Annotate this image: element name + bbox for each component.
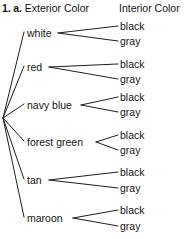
branch-line-stage2-2-0 <box>81 97 118 105</box>
interior-color-label: gray <box>120 107 140 118</box>
exterior-color-label: tan <box>27 175 42 186</box>
branch-line-stage1-3 <box>3 118 24 141</box>
interior-color-label: gray <box>120 183 140 194</box>
branch-line-stage2-3-0 <box>96 135 118 142</box>
interior-color-label: gray <box>120 36 140 47</box>
branch-line-stage2-0-0 <box>58 26 118 33</box>
exterior-color-label: navy blue <box>27 100 72 111</box>
interior-color-label: black <box>120 167 145 178</box>
exterior-color-label: white <box>27 28 52 39</box>
branch-line-stage2-0-1 <box>58 33 118 41</box>
branch-line-stage2-1-0 <box>49 64 118 67</box>
branch-line-stage2-3-1 <box>96 142 118 150</box>
exterior-color-label: maroon <box>27 213 63 224</box>
interior-color-label: gray <box>120 74 140 85</box>
branch-line-stage1-5 <box>3 118 24 217</box>
interior-color-label: black <box>120 205 145 216</box>
interior-color-label: gray <box>120 145 140 156</box>
branch-line-stage2-4-0 <box>49 172 118 180</box>
interior-color-label: black <box>120 130 145 141</box>
branch-line-stage2-4-1 <box>49 180 118 188</box>
interior-color-label: black <box>120 59 145 70</box>
interior-color-label: black <box>120 21 145 32</box>
branch-line-stage2-5-1 <box>73 218 118 226</box>
branch-line-stage2-1-1 <box>49 67 118 79</box>
interior-color-label: gray <box>120 221 140 232</box>
interior-color-label: black <box>120 92 145 103</box>
branch-line-stage2-5-0 <box>73 210 118 218</box>
branch-line-stage2-2-1 <box>81 105 118 112</box>
exterior-color-label: red <box>27 62 42 73</box>
tree-diagram-canvas: 1. a. Exterior Color Interior Color whit… <box>0 0 187 239</box>
exterior-color-label: forest green <box>27 137 83 148</box>
